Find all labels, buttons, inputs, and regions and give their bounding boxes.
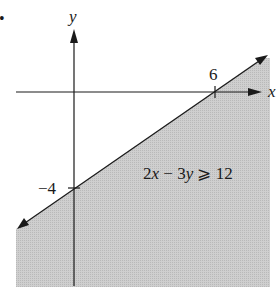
relation-sign: ⩾ (193, 164, 216, 183)
var-y: y (184, 164, 194, 183)
minus-sign: − (159, 164, 177, 183)
coef-x: 2 (143, 164, 152, 183)
y-axis-arrow-icon (70, 29, 78, 43)
coef-y: 3 (177, 164, 186, 183)
y-axis-label: y (67, 7, 77, 26)
inequality-graph: • y x 6 −4 2x − 3y ⩾ 12 (0, 0, 279, 293)
rhs-value: 12 (216, 164, 233, 183)
y-tick-label: −4 (38, 179, 57, 198)
x-tick-label: 6 (209, 65, 218, 84)
inequality-label: 2x − 3y ⩾ 12 (143, 164, 233, 183)
bullet-marker: • (0, 10, 5, 27)
x-axis-label: x (267, 82, 276, 101)
